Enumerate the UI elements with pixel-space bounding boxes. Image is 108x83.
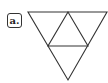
inner-triangle bbox=[48, 12, 88, 46]
triangle-diagram bbox=[0, 0, 108, 83]
